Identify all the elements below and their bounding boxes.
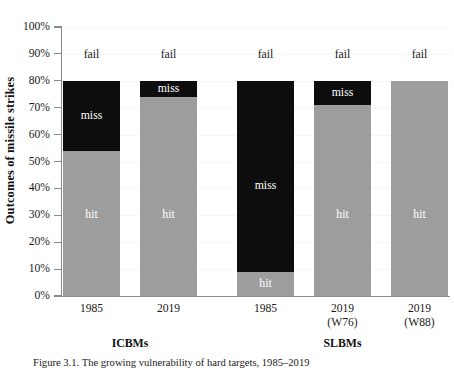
y-axis-tick-mark (54, 295, 61, 296)
y-axis-tick-mark (54, 188, 61, 189)
x-axis-tick-label-year: 2019 (408, 302, 431, 315)
y-axis-tick-mark (54, 26, 61, 27)
x-axis-line (61, 296, 450, 297)
bar-segment-miss[interactable]: miss (237, 81, 294, 272)
bar-segment-label-hit: hit (336, 209, 348, 221)
bar-segment-label-fail: fail (314, 49, 371, 61)
plot-area: hitmissfailhitmissfailhitmissfailhitmiss… (62, 27, 450, 296)
y-axis-tick-label: 10% (2, 263, 50, 275)
y-axis-tick-mark (54, 161, 61, 162)
bar-segment-label-hit: hit (259, 278, 271, 290)
bar-segment-hit[interactable]: hit (63, 151, 120, 296)
bar-segment-label-fail: fail (140, 49, 197, 61)
y-axis-tick-label: 90% (2, 48, 50, 60)
y-axis-tick-mark (54, 242, 61, 243)
bar-stack[interactable]: hitmissfail (140, 27, 197, 296)
bar-segment-label-hit: hit (85, 209, 97, 221)
x-axis-tick-label-year: 1985 (80, 302, 103, 315)
y-axis-tick-label: 50% (2, 156, 50, 168)
y-axis-tick-label: 70% (2, 102, 50, 114)
y-axis-tick-mark (54, 80, 61, 81)
figure-caption: Figure 3.1. The growing vulnerability of… (33, 357, 453, 369)
x-axis-tick-label-year: 2019 (331, 302, 354, 315)
bar-segment-hit[interactable]: hit (391, 81, 448, 296)
y-axis-tick-label: 40% (2, 182, 50, 194)
y-axis-tick-label: 20% (2, 236, 50, 248)
bar-segment-hit[interactable]: hit (314, 105, 371, 296)
x-axis-tick-label: 2019(W76) (314, 302, 371, 329)
bar-segment-label-fail: fail (391, 49, 448, 61)
bar-segment-miss[interactable]: miss (314, 81, 371, 105)
bar-segment-label-fail: fail (63, 49, 120, 61)
bar-segment-label-hit: hit (162, 209, 174, 221)
bar-segment-label-miss: miss (255, 180, 277, 192)
figure-container: Outcomes of missile strikes 0%10%20%30%4… (0, 0, 454, 371)
y-axis-tick-mark (54, 53, 61, 54)
x-axis-tick-label-warhead: (W88) (391, 316, 448, 330)
bar-stack[interactable]: hitmissfail (314, 27, 371, 296)
group-title-slbms: SLBMs (237, 338, 448, 350)
y-axis-tick-label: 100% (2, 21, 50, 33)
bar-segment-miss[interactable]: miss (63, 81, 120, 151)
x-axis-tick-label-year: 1985 (254, 302, 277, 315)
y-axis-tick-mark (54, 215, 61, 216)
bar-segment-miss[interactable]: miss (140, 81, 197, 97)
x-axis-tick-label: 1985 (63, 302, 120, 316)
bar-stack[interactable]: hitmissfail (237, 27, 294, 296)
group-title-icbms: ICBMs (63, 338, 197, 350)
x-axis-tick-label-year: 2019 (157, 302, 180, 315)
bar-stack[interactable]: hitfail (391, 27, 448, 296)
x-axis-tick-label: 2019 (140, 302, 197, 316)
bar-segment-label-miss: miss (332, 87, 354, 99)
y-axis-tick-label: 80% (2, 75, 50, 87)
y-axis-tick-label: 0% (2, 290, 50, 302)
y-axis-tick-label: 30% (2, 209, 50, 221)
x-axis-tick-label: 1985 (237, 302, 294, 316)
bar-stack[interactable]: hitmissfail (63, 27, 120, 296)
y-axis-title: Outcomes of missile strikes (0, 0, 22, 300)
bar-segment-label-fail: fail (237, 49, 294, 61)
bar-segment-label-hit: hit (413, 209, 425, 221)
bar-segment-label-miss: miss (158, 83, 180, 95)
x-axis-tick-label: 2019(W88) (391, 302, 448, 329)
bar-segment-hit[interactable]: hit (237, 272, 294, 296)
y-axis-tick-label: 60% (2, 129, 50, 141)
y-axis-title-text: Outcomes of missile strikes (4, 76, 19, 223)
bar-segment-label-miss: miss (81, 110, 103, 122)
bar-segment-hit[interactable]: hit (140, 97, 197, 296)
y-axis-tick-mark (54, 134, 61, 135)
y-axis-tick-mark (54, 269, 61, 270)
y-axis-tick-mark (54, 107, 61, 108)
x-axis-tick-label-warhead: (W76) (314, 316, 371, 330)
